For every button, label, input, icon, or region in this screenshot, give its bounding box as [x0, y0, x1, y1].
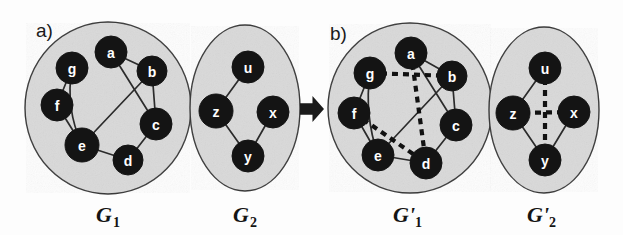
node-label-G1prime-f: f — [352, 106, 357, 122]
graph-caption-subscript-G2prime: 2 — [549, 215, 556, 230]
node-G1prime-a: a — [395, 37, 427, 69]
graph-caption-G1: G — [96, 202, 112, 227]
graph-transformation-figure: abcdefguzxyabcdefguzxy G1G2G'1G'2 a)b) — [0, 0, 623, 235]
node-G1prime-c: c — [440, 109, 472, 141]
node-label-G1-c: c — [152, 117, 160, 133]
node-label-G2prime-z: z — [510, 106, 517, 122]
node-label-G2-z: z — [213, 104, 220, 120]
node-label-G1-b: b — [148, 64, 157, 80]
node-label-G1prime-a: a — [407, 46, 415, 62]
node-G1-f: f — [41, 89, 73, 121]
node-G1prime-d: d — [410, 147, 442, 179]
node-G1-c: c — [140, 108, 172, 140]
right-arrow-icon — [300, 96, 324, 122]
node-G1-g: g — [56, 52, 88, 84]
node-label-G1prime-e: e — [374, 148, 382, 164]
panel-letter-a: a) — [36, 20, 53, 41]
node-G2-x: x — [257, 96, 289, 128]
node-G1-b: b — [137, 56, 167, 86]
node-label-G2-y: y — [244, 149, 252, 165]
node-label-G2-u: u — [244, 60, 253, 76]
node-G1prime-f: f — [338, 97, 370, 129]
node-G2-u: u — [232, 51, 264, 83]
node-G1prime-b: b — [437, 61, 467, 91]
node-label-G1-d: d — [124, 153, 133, 169]
node-G1-a: a — [95, 36, 127, 68]
node-G2-y: y — [232, 140, 264, 172]
node-label-G1prime-g: g — [366, 66, 375, 82]
graph-labels-layer: G1G2G'1G'2 — [96, 202, 556, 230]
node-label-G1-a: a — [107, 45, 115, 61]
node-label-G1-e: e — [78, 138, 86, 154]
node-label-G1prime-b: b — [448, 69, 457, 85]
node-G2prime-z: z — [496, 96, 530, 130]
node-G2prime-y: y — [529, 144, 561, 176]
node-label-G2-x: x — [269, 105, 277, 121]
node-G1-d: d — [113, 145, 143, 175]
panel-letter-b: b) — [330, 23, 347, 44]
node-label-G2prime-u: u — [541, 61, 550, 77]
node-label-G1-g: g — [68, 61, 77, 77]
graph-caption-subscript-G1prime: 1 — [415, 215, 422, 230]
node-label-G2prime-x: x — [570, 105, 578, 121]
node-label-G1-f: f — [55, 98, 60, 114]
node-label-G2prime-y: y — [541, 153, 549, 169]
graph-caption-subscript-G1: 1 — [113, 215, 120, 230]
node-label-G1prime-c: c — [452, 118, 460, 134]
node-G2prime-x: x — [558, 96, 590, 128]
graph-caption-G2prime: G' — [527, 202, 549, 227]
node-G1-e: e — [65, 128, 99, 162]
graph-caption-G2: G — [233, 202, 249, 227]
node-G2prime-u: u — [529, 52, 561, 84]
node-label-G1prime-d: d — [422, 156, 431, 172]
node-G2-z: z — [199, 94, 233, 128]
graph-caption-subscript-G2: 2 — [250, 215, 257, 230]
node-G1prime-g: g — [354, 57, 386, 89]
node-G1prime-e: e — [362, 139, 394, 171]
figure-root: abcdefguzxyabcdefguzxy G1G2G'1G'2 a)b) — [0, 0, 623, 235]
graph-caption-G1prime: G' — [393, 202, 415, 227]
